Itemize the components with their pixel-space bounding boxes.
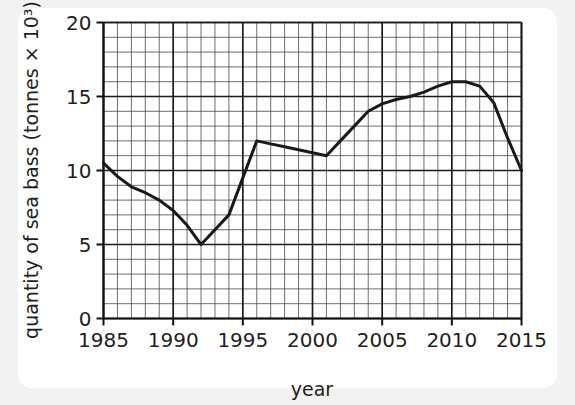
- x-tick-label: 2015: [496, 328, 547, 352]
- y-tick-label: 5: [79, 233, 92, 257]
- y-axis-tick-labels: 05101520: [66, 11, 91, 331]
- x-tick-label: 2010: [426, 328, 477, 352]
- y-tick-label: 15: [66, 85, 91, 109]
- line-chart: 1985199019952000200520102015 05101520 ye…: [0, 0, 575, 405]
- chart-canvas: 1985199019952000200520102015 05101520 ye…: [0, 0, 575, 405]
- x-tick-label: 1990: [148, 328, 199, 352]
- x-axis-label: year: [291, 378, 334, 400]
- x-tick-label: 1995: [217, 328, 268, 352]
- y-axis-label: quantity of sea bass (tonnes × 10³): [20, 1, 42, 339]
- x-tick-label: 2005: [357, 328, 408, 352]
- x-axis-tick-labels: 1985199019952000200520102015: [78, 328, 547, 352]
- x-tick-label: 2000: [287, 328, 338, 352]
- y-tick-label: 0: [79, 307, 92, 331]
- y-tick-label: 20: [66, 11, 91, 35]
- y-tick-label: 10: [66, 159, 91, 183]
- x-tick-label: 1985: [78, 328, 129, 352]
